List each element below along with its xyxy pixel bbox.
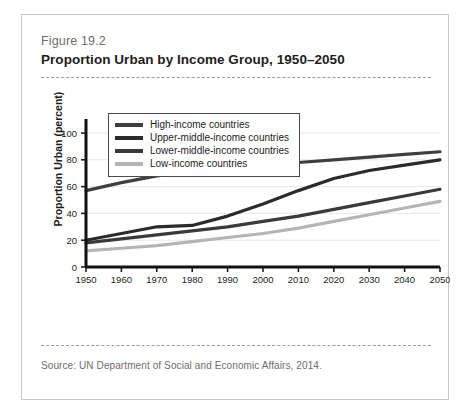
source-note: Source: UN Department of Social and Econ… — [41, 360, 322, 371]
chart-legend: High-income countries Upper-middle-incom… — [108, 113, 300, 177]
legend-item: Low-income countries — [115, 158, 293, 170]
divider-top — [41, 77, 431, 78]
divider-bottom — [41, 345, 431, 346]
legend-swatch-lower-middle-income — [115, 149, 143, 153]
svg-text:2040: 2040 — [394, 274, 415, 285]
legend-label: Low-income countries — [150, 158, 247, 170]
svg-text:1970: 1970 — [146, 274, 167, 285]
svg-text:2000: 2000 — [252, 274, 273, 285]
svg-text:100: 100 — [61, 128, 77, 139]
legend-item: High-income countries — [115, 119, 293, 131]
svg-text:1980: 1980 — [182, 274, 203, 285]
legend-swatch-high-income — [115, 123, 143, 127]
legend-label: Lower-middle-income countries — [150, 145, 289, 157]
legend-item: Upper-middle-income countries — [115, 132, 293, 144]
legend-swatch-upper-middle-income — [115, 136, 143, 140]
legend-label: Upper-middle-income countries — [150, 132, 289, 144]
y-axis-ticks: 020406080100 — [61, 128, 86, 273]
svg-text:20: 20 — [66, 235, 77, 246]
figure-title: Proportion Urban by Income Group, 1950–2… — [41, 52, 345, 67]
svg-text:1960: 1960 — [111, 274, 132, 285]
chart-plot-area: Proportion Urban (percent) 020406080100 … — [22, 85, 450, 340]
svg-text:2050: 2050 — [429, 274, 450, 285]
legend-item: Lower-middle-income countries — [115, 145, 293, 157]
x-axis-ticks: 1950196019701980199020002010202020302040… — [75, 267, 450, 285]
figure-card: Figure 19.2 Proportion Urban by Income G… — [21, 14, 449, 400]
svg-text:2010: 2010 — [288, 274, 309, 285]
svg-text:2020: 2020 — [323, 274, 344, 285]
figure-number: Figure 19.2 — [41, 34, 106, 48]
svg-text:2030: 2030 — [359, 274, 380, 285]
svg-text:0: 0 — [72, 262, 77, 273]
svg-text:1950: 1950 — [75, 274, 96, 285]
legend-label: High-income countries — [150, 119, 250, 131]
svg-text:60: 60 — [66, 181, 77, 192]
svg-text:40: 40 — [66, 208, 77, 219]
legend-swatch-low-income — [115, 162, 143, 166]
svg-text:1990: 1990 — [217, 274, 238, 285]
svg-text:80: 80 — [66, 154, 77, 165]
